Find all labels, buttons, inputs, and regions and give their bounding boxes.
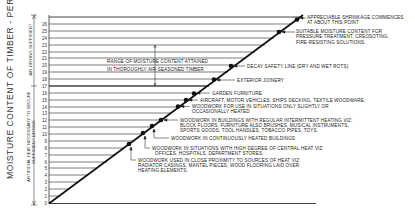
annotation-exterior-joinery: EXTERIOR JOINERY <box>237 78 284 83</box>
tick-3: 3 <box>37 180 47 185</box>
annotation-central-heat: WOODWORK IN SITUATIONS WITH HIGH DEGREE … <box>152 146 324 157</box>
tick-25: 25 <box>37 29 47 34</box>
annotation-garden-furniture: GARDEN FURNITURE. <box>212 91 263 96</box>
range-label-line1: RANGE OF MOISTURE CONTENT ATTAINED <box>107 59 208 64</box>
tick-4: 4 <box>37 173 47 178</box>
tick-9: 9 <box>37 139 47 144</box>
tick-10: 10 <box>37 132 47 137</box>
tick-6: 6 <box>37 160 47 165</box>
annotation-aircraft: AIRCRAFT, MOTOR VEHICLES, SHIPS DECKING,… <box>200 98 365 103</box>
annotation-intermittent-heating: WOODWORK IN BUILDINGS WITH REGULAR INTER… <box>180 118 352 134</box>
annotation-pressure-line3: FIRE-RESISTING SOLUTIONS. <box>296 40 389 45</box>
air-drying-label: AIR DRYING SUFFICIENT <box>28 20 33 80</box>
tick-15: 15 <box>37 98 47 103</box>
annotation-shrinkage: APPRECIABLE SHRINKAGE COMMENCES AT ABOUT… <box>307 15 404 26</box>
tick-21: 21 <box>37 56 47 61</box>
annotation-continuously-heated: WOODWORK IN CONTINUOUSLY HEATED BUILDING… <box>171 136 295 141</box>
artificial-heat-label: ARTIFICIAL HEAT NECESSARY TO SECURE SUFF… <box>26 102 36 182</box>
tick-17: 17 <box>37 84 47 89</box>
tick-2: 2 <box>37 187 47 192</box>
annotation-intermittent-line3: SPORTS GOODS, TOOL HANDLES, TOBACCO PIPE… <box>180 128 352 133</box>
range-label-line2: IN THOROUGHLY AIR-SEASONED TIMBER <box>107 67 208 72</box>
tick-16: 16 <box>37 91 47 96</box>
tick-13: 13 <box>37 111 47 116</box>
tick-19: 19 <box>37 70 47 75</box>
annotation-slightly-heated: WOODWORK FOR USE IN SITUATIONS ONLY SLIG… <box>192 104 329 115</box>
tick-0: 0 <box>37 201 47 206</box>
annotation-central-line2: OFFICES, HOSPITALS, DEPARTMENT STORES. <box>152 151 324 156</box>
tick-26: 26 <box>37 22 47 27</box>
tick-1: 1 <box>37 194 47 199</box>
annotation-shrinkage-line2: AT ABOUT THIS POINT <box>307 20 404 25</box>
tick-20: 20 <box>37 63 47 68</box>
annotation-proximity-line3: HEATING ELEMENTS. <box>138 168 301 173</box>
tick-24: 24 <box>37 36 47 41</box>
tick-23: 23 <box>37 43 47 48</box>
annotation-decay-safety: DECAY SAFETY LINE (DRY AND WET ROTS) <box>247 64 348 69</box>
tick-18: 18 <box>37 77 47 82</box>
tick-7: 7 <box>37 153 47 158</box>
annotation-pressure-treatment: SUITABLE MOISTURE CONTENT FOR PRESSURE T… <box>296 29 389 45</box>
tick-22: 22 <box>37 50 47 55</box>
annotation-close-proximity: WOODWORK USED IN CLOSE PROXIMITY TO SOUR… <box>138 158 301 174</box>
tick-8: 8 <box>37 146 47 151</box>
artificial-heat-line2: SUFFICIENT DRYING <box>31 102 36 182</box>
tick-5: 5 <box>37 166 47 171</box>
tick-11: 11 <box>37 125 47 130</box>
tick-12: 12 <box>37 118 47 123</box>
y-axis-title: MOISTURE CONTENT OF TIMBER - PER CENT <box>5 39 15 179</box>
annotation-slight-line2: OCCASIONALLY HEATED <box>192 109 329 114</box>
tick-14: 14 <box>37 105 47 110</box>
range-label: RANGE OF MOISTURE CONTENT ATTAINED IN TH… <box>107 59 208 73</box>
